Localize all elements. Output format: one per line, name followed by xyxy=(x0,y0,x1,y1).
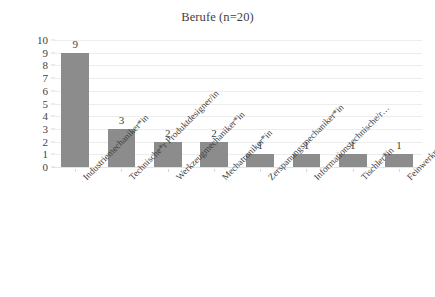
x-tick-label: Informationstechnische/r… xyxy=(312,175,319,182)
bar-value-label: 9 xyxy=(61,39,89,50)
x-axis: Industriemechaniker*inTechnische*r Produ… xyxy=(52,169,435,297)
y-tick-label: 10 xyxy=(18,35,48,46)
y-tick-label: 6 xyxy=(18,85,48,96)
x-tick-mark xyxy=(214,169,215,172)
x-tick-label: Zerspanungsmechaniker*in xyxy=(266,175,273,182)
y-tick-label: 4 xyxy=(18,111,48,122)
x-tick-mark xyxy=(168,169,169,172)
y-tick-label: 2 xyxy=(18,136,48,147)
y-tick-label: 0 xyxy=(18,162,48,173)
x-tick-mark xyxy=(75,169,76,172)
x-tick-label: Technische*r Produktdesigner/in xyxy=(127,175,134,182)
bar[interactable] xyxy=(61,53,89,167)
y-tick-label: 9 xyxy=(18,47,48,58)
bar-group[interactable] xyxy=(61,40,89,167)
x-tick-label: Werkzeugmechaniker*in xyxy=(174,175,181,182)
y-tick-label: 8 xyxy=(18,60,48,71)
y-axis: 012345678910 xyxy=(18,40,48,167)
x-tick-label: Tischler*in xyxy=(359,175,366,182)
x-tick-mark xyxy=(399,169,400,172)
chart-title: Berufe (n=20) xyxy=(0,10,435,25)
bar-chart-figure: Berufe (n=20) 012345678910 93221111 Indu… xyxy=(0,0,435,297)
x-tick-label: Industriemechaniker*in xyxy=(81,175,88,182)
x-tick-label: Feinwerkmechaniker*in xyxy=(405,175,412,182)
x-tick-mark xyxy=(353,169,354,172)
y-tick-label: 7 xyxy=(18,73,48,84)
x-tick-mark xyxy=(121,169,122,172)
x-tick-mark xyxy=(260,169,261,172)
x-tick-label: Mechatroniker*in xyxy=(220,175,227,182)
x-tick-mark xyxy=(306,169,307,172)
y-tick-label: 3 xyxy=(18,123,48,134)
y-tick-label: 5 xyxy=(18,98,48,109)
y-tick-label: 1 xyxy=(18,149,48,160)
